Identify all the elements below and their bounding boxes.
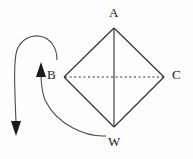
arrowhead-down-icon [11,121,21,136]
edge-WC [114,77,164,127]
edge-BW [64,77,114,127]
edge-AC [114,28,164,77]
edge-AB [64,28,114,77]
vertex-label-a: A [109,6,118,19]
diagram-canvas [0,0,193,159]
curved-arrow-inner [41,73,106,136]
vertex-label-c: C [172,68,181,81]
vertex-label-w: W [108,135,120,148]
arrowhead-up-icon [36,62,46,77]
geometry-diagram: A B C W [0,0,193,159]
vertex-label-b: B [47,68,56,81]
